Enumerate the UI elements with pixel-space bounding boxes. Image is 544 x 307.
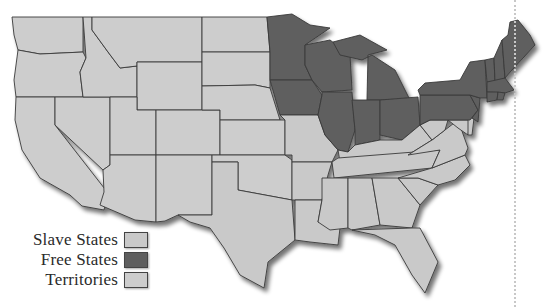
slave-swatch-icon [124,232,148,248]
state-oregon [14,50,86,97]
state-indiana [352,100,380,145]
state-delaware [468,118,474,135]
legend-label: Territories [45,270,118,290]
state-wyoming [137,62,202,110]
state-north-dakota [202,17,270,52]
state-rhode-island [497,92,505,100]
state-new-york [418,60,487,98]
legend-label: Slave States [33,230,118,250]
legend-label: Free States [41,250,118,270]
legend-item-territory: Territories [14,270,148,290]
territory-swatch-icon [124,272,148,288]
state-colorado [156,110,220,155]
dotted-divider-line [514,0,516,307]
legend-item-free: Free States [14,250,148,270]
state-connecticut [487,92,498,102]
state-kansas [220,120,285,155]
state-south-dakota [202,52,270,88]
free-swatch-icon [124,252,148,268]
state-mississippi [318,178,348,230]
state-maine [502,20,535,78]
legend-item-slave: Slave States [14,230,148,250]
state-washington [12,17,83,54]
map-legend: Slave States Free States Territories [14,230,148,290]
state-new-mexico [156,155,212,222]
state-florida [352,228,438,293]
state-iowa [270,80,322,115]
state-vermont [485,58,495,82]
